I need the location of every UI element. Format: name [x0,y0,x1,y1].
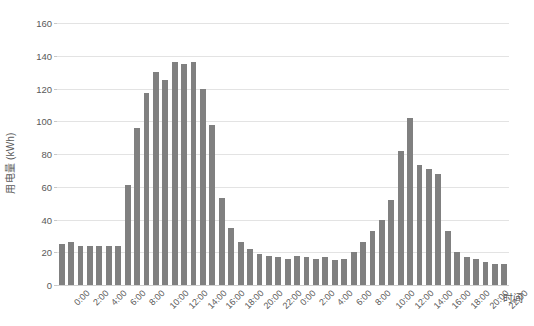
bar-slot[interactable] [264,23,273,285]
bar-slot[interactable] [462,23,471,285]
bar-slot[interactable] [170,23,179,285]
bar[interactable] [257,254,263,285]
bar[interactable] [134,128,140,285]
bar-slot[interactable] [311,23,320,285]
bar-slot[interactable] [292,23,301,285]
bar[interactable] [144,93,150,285]
bar[interactable] [464,257,470,285]
bar[interactable] [360,242,366,285]
bar[interactable] [483,262,489,285]
bar[interactable] [275,257,281,285]
bar-slot[interactable] [198,23,207,285]
bar[interactable] [172,62,178,285]
bar-slot[interactable] [481,23,490,285]
bar[interactable] [294,256,300,285]
bar[interactable] [322,257,328,285]
bar[interactable] [115,246,121,285]
bar-slot[interactable] [321,23,330,285]
bar[interactable] [492,264,498,285]
bar[interactable] [388,200,394,285]
bar[interactable] [228,228,234,285]
bar[interactable] [501,264,507,285]
bar[interactable] [407,118,413,285]
bar-slot[interactable] [330,23,339,285]
bar[interactable] [454,252,460,285]
bar[interactable] [435,174,441,285]
bar[interactable] [304,257,310,285]
bar-slot[interactable] [405,23,414,285]
bar-slot[interactable] [245,23,254,285]
bar-slot[interactable] [227,23,236,285]
bar-slot[interactable] [217,23,226,285]
bar[interactable] [313,259,319,285]
bar[interactable] [379,220,385,286]
bar[interactable] [200,89,206,286]
bar[interactable] [162,80,168,285]
bar-slot[interactable] [453,23,462,285]
bar-slot[interactable] [104,23,113,285]
x-tick-label: 14:00 [205,288,228,311]
bar[interactable] [341,259,347,285]
bar[interactable] [247,249,253,285]
bar[interactable] [370,231,376,285]
bar[interactable] [191,62,197,285]
bar-slot[interactable] [123,23,132,285]
bar[interactable] [219,198,225,285]
bar-slot[interactable] [142,23,151,285]
bar-slot[interactable] [274,23,283,285]
bar[interactable] [351,252,357,285]
bar[interactable] [266,256,272,285]
bar-slot[interactable] [236,23,245,285]
bar[interactable] [209,125,215,285]
bar[interactable] [426,169,432,285]
bar-slot[interactable] [396,23,405,285]
bar-slot[interactable] [434,23,443,285]
bar-slot[interactable] [340,23,349,285]
bar-slot[interactable] [283,23,292,285]
bar[interactable] [96,246,102,285]
bar[interactable] [78,246,84,285]
bar[interactable] [417,165,423,285]
bar[interactable] [106,246,112,285]
bar-slot[interactable] [179,23,188,285]
bar-slot[interactable] [358,23,367,285]
bar[interactable] [332,260,338,285]
bar-slot[interactable] [189,23,198,285]
bar-slot[interactable] [415,23,424,285]
bar-slot[interactable] [368,23,377,285]
x-tick-label: 18:00 [243,288,266,311]
bar[interactable] [87,246,93,285]
bar-slot[interactable] [255,23,264,285]
bar-slot[interactable] [349,23,358,285]
bar-slot[interactable] [387,23,396,285]
bar-slot[interactable] [377,23,386,285]
bar-slot[interactable] [85,23,94,285]
bar[interactable] [125,185,131,285]
bar-slot[interactable] [66,23,75,285]
bar-slot[interactable] [114,23,123,285]
bar-slot[interactable] [95,23,104,285]
bar[interactable] [285,259,291,285]
bar-slot[interactable] [500,23,509,285]
bar-slot[interactable] [302,23,311,285]
bar[interactable] [238,242,244,285]
bar-slot[interactable] [57,23,66,285]
bar-series [57,23,509,285]
bar[interactable] [68,242,74,285]
bar[interactable] [153,72,159,285]
bar-slot[interactable] [76,23,85,285]
bar-slot[interactable] [490,23,499,285]
bar[interactable] [181,64,187,285]
bar[interactable] [59,244,65,285]
bar[interactable] [445,231,451,285]
bar-slot[interactable] [132,23,141,285]
bar-slot[interactable] [424,23,433,285]
bar-slot[interactable] [471,23,480,285]
bar-slot[interactable] [208,23,217,285]
x-tick-label: 14:00 [431,288,454,311]
bar[interactable] [473,259,479,285]
bar[interactable] [398,151,404,285]
bar-slot[interactable] [151,23,160,285]
bar-slot[interactable] [443,23,452,285]
bar-slot[interactable] [161,23,170,285]
